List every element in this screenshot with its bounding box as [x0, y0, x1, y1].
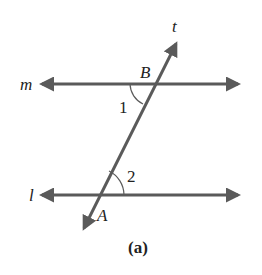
label-angle-2: 2: [127, 167, 136, 186]
label-m: m: [20, 75, 32, 94]
transversal-t: [84, 44, 176, 228]
label-point-b: B: [140, 63, 151, 82]
angle-1-arc: [130, 84, 143, 104]
label-angle-1: 1: [119, 98, 128, 117]
parallel-lines-diagram: t m l B 1 2 A (a): [0, 0, 262, 275]
label-l: l: [29, 186, 34, 205]
label-point-a: A: [96, 206, 108, 225]
label-t: t: [172, 17, 178, 36]
caption: (a): [128, 238, 148, 257]
